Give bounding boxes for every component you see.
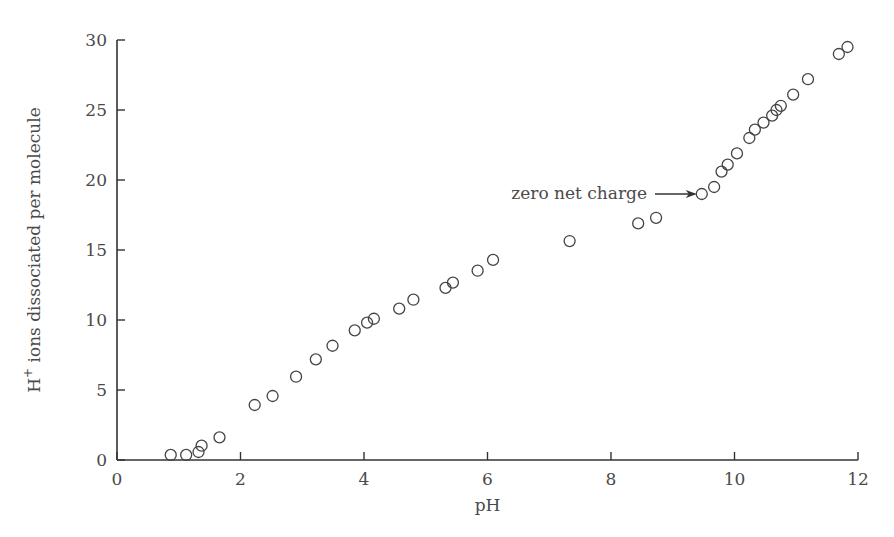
data-points <box>165 42 853 461</box>
axes: 024681012051015202530 <box>85 30 868 489</box>
data-point-marker <box>447 277 458 288</box>
y-tick-label: 10 <box>85 310 107 330</box>
data-point-marker <box>651 212 662 223</box>
data-point-marker <box>310 354 321 365</box>
annotation-label: zero net charge <box>511 183 647 203</box>
data-point-marker <box>488 254 499 265</box>
data-point-marker <box>165 449 176 460</box>
data-point-marker <box>633 218 644 229</box>
x-tick-label: 4 <box>359 469 370 489</box>
y-tick-label: 0 <box>96 450 107 470</box>
x-tick-label: 12 <box>847 469 869 489</box>
data-point-marker <box>291 371 302 382</box>
data-point-marker <box>349 325 360 336</box>
data-point-marker <box>802 74 813 85</box>
data-point-marker <box>440 282 451 293</box>
y-axis-label: H+ ions dissociated per molecule <box>21 107 44 393</box>
x-tick-label: 8 <box>606 469 617 489</box>
x-tick-label: 2 <box>235 469 246 489</box>
y-tick-label: 5 <box>96 380 107 400</box>
data-point-marker <box>472 265 483 276</box>
data-point-marker <box>181 449 192 460</box>
data-point-marker <box>196 440 207 451</box>
y-axis-label-base: H <box>24 378 44 393</box>
y-tick-label: 25 <box>85 100 107 120</box>
y-axis-label-superscript: + <box>21 368 35 378</box>
data-point-marker <box>249 399 260 410</box>
data-point-marker <box>716 166 727 177</box>
zero-net-charge-annotation: zero net charge <box>511 183 696 203</box>
data-point-marker <box>564 236 575 247</box>
scatter-chart: 024681012051015202530 zero net charge pH… <box>0 0 894 537</box>
data-point-marker <box>788 89 799 100</box>
data-point-marker <box>327 340 338 351</box>
data-point-marker <box>722 159 733 170</box>
data-point-marker <box>214 432 225 443</box>
data-point-marker <box>709 182 720 193</box>
y-axis-label-rest: ions dissociated per molecule <box>24 107 44 368</box>
data-point-marker <box>408 294 419 305</box>
data-point-marker <box>394 303 405 314</box>
x-axis-label: pH <box>475 495 501 515</box>
x-tick-label: 0 <box>112 469 123 489</box>
y-tick-label: 30 <box>85 30 107 50</box>
x-tick-label: 6 <box>482 469 493 489</box>
data-point-marker <box>267 391 278 402</box>
data-point-marker <box>842 42 853 53</box>
y-tick-label: 15 <box>85 240 107 260</box>
data-point-marker <box>193 447 204 458</box>
y-tick-label: 20 <box>85 170 107 190</box>
data-point-marker <box>731 148 742 159</box>
data-point-marker <box>696 189 707 200</box>
x-tick-label: 10 <box>724 469 746 489</box>
